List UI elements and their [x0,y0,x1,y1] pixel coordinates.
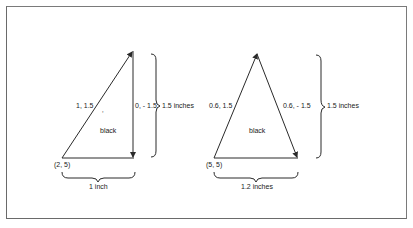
right-height-label: 1.5 inches [327,102,359,110]
right-side1-label: 0.6, 1.5 [209,102,232,110]
left-side1-label: 1, 1.5 [76,102,94,110]
right-height-brace [316,55,325,158]
left-width-brace [62,172,135,182]
left-origin-label: (2, 5) [54,161,70,169]
right-side2-label: 0.6, - 1.5 [283,102,311,110]
right-fill-label: black [249,127,265,135]
right-width-brace [214,172,298,182]
triangle-diagram [0,0,413,228]
left-hypotenuse-vector [62,52,132,158]
left-width-label: 1 inch [89,183,108,191]
left-triangle [62,51,134,158]
left-fill-label: black [100,127,116,135]
left-side2-label: 0, - 1.5 [135,102,157,110]
right-width-label: 1.2 inches [241,183,273,191]
left-tick-mark: ʼ [102,111,104,119]
left-height-label: 1.5 inches [162,102,194,110]
right-origin-label: (5, 5) [206,161,222,169]
